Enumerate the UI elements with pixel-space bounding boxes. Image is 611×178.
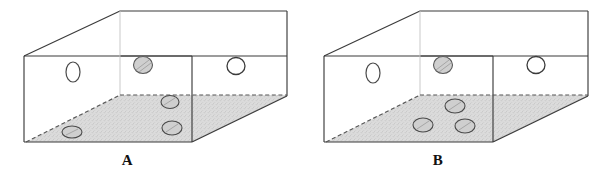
bubble-right-face-open-a (227, 58, 245, 75)
figure-label-b: B (285, 152, 591, 169)
bubble-right-face-open-b (527, 57, 545, 74)
bubble-front-left-open-a (66, 62, 80, 82)
figure-panel-b: B (305, 0, 611, 178)
figure-panel-a: A (0, 0, 305, 178)
bubble-liquid-upper-a (161, 96, 179, 109)
diagram-canvas: A (0, 0, 611, 178)
figure-label-a: A (0, 152, 280, 169)
bubble-front-left-open-b (366, 63, 380, 83)
